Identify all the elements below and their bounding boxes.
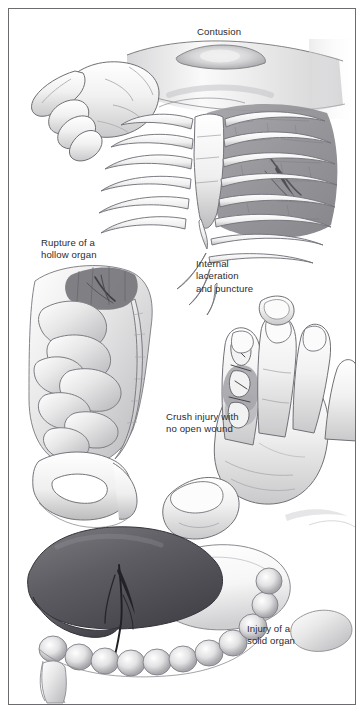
illustration-artwork xyxy=(9,9,356,705)
art-intestines-rupture xyxy=(29,266,152,528)
label-injury-solid-organ: Injury of a solid organ xyxy=(247,623,295,648)
figure-root: Contusion Rupture of a hollow organ Inte… xyxy=(0,0,364,713)
art-liver-laceration xyxy=(28,527,352,703)
label-rupture-hollow-organ: Rupture of a hollow organ xyxy=(41,237,97,262)
art-incidental-shading xyxy=(285,509,355,527)
label-contusion: Contusion xyxy=(197,26,241,38)
label-internal-laceration-and-puncture: Internal laceration and puncture xyxy=(196,258,253,295)
label-crush-injury-no-open-wound: Crush injury with no open wound xyxy=(166,411,239,436)
figure-frame: Contusion Rupture of a hollow organ Inte… xyxy=(8,8,356,705)
art-forearm-contusion xyxy=(32,39,356,161)
